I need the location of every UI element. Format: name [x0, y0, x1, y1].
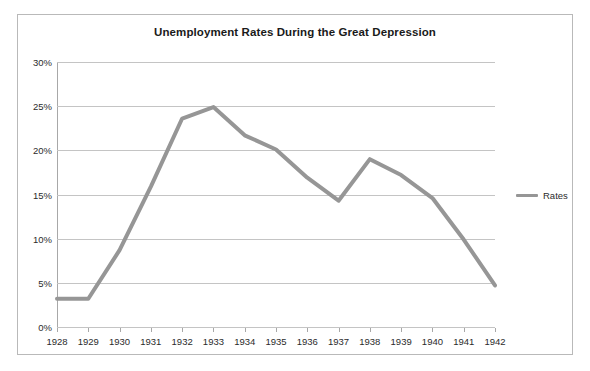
y-axis-tick-label: 10%	[12, 233, 52, 244]
x-axis-tick-mark	[120, 328, 121, 332]
x-axis-tick-mark	[464, 328, 465, 332]
series-line-rates	[57, 62, 495, 327]
x-axis-tick-mark	[213, 328, 214, 332]
x-axis-tick-mark	[245, 328, 246, 332]
x-axis-tick-label: 1942	[473, 336, 517, 347]
y-axis-tick-labels: 0%5%10%15%20%25%30%	[8, 62, 52, 327]
x-axis-tick-mark	[495, 328, 496, 332]
legend: Rates	[516, 190, 568, 201]
x-axis-tick-marks	[57, 328, 495, 333]
x-axis-tick-mark	[88, 328, 89, 332]
x-axis-tick-mark	[57, 328, 58, 332]
plot-area	[57, 62, 495, 327]
y-axis-tick-label: 15%	[12, 189, 52, 200]
chart-container: Unemployment Rates During the Great Depr…	[0, 0, 590, 371]
x-axis-tick-mark	[182, 328, 183, 332]
x-axis-tick-mark	[276, 328, 277, 332]
y-axis-tick-label: 25%	[12, 101, 52, 112]
y-axis-tick-label: 5%	[12, 277, 52, 288]
y-axis-tick-label: 0%	[12, 322, 52, 333]
chart-title: Unemployment Rates During the Great Depr…	[0, 26, 590, 38]
x-axis-tick-labels: 1928192919301931193219331934193519361937…	[57, 336, 495, 352]
y-axis-tick-label: 20%	[12, 145, 52, 156]
x-axis-tick-mark	[432, 328, 433, 332]
legend-swatch-rates	[516, 194, 538, 198]
legend-label-rates: Rates	[543, 190, 568, 201]
y-axis-tick-label: 30%	[12, 57, 52, 68]
x-axis-tick-mark	[151, 328, 152, 332]
x-axis-tick-mark	[370, 328, 371, 332]
x-axis-tick-mark	[401, 328, 402, 332]
x-axis-tick-mark	[307, 328, 308, 332]
x-axis-tick-mark	[339, 328, 340, 332]
